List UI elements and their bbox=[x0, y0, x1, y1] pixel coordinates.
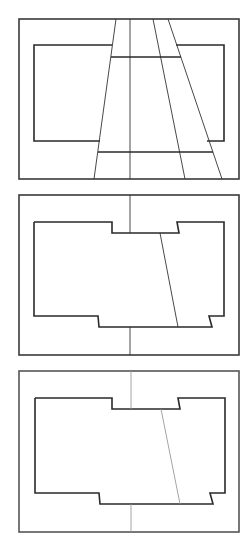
panel-2-diagonal bbox=[160, 233, 178, 327]
panel-2 bbox=[19, 195, 239, 355]
panel-3-inner-shape bbox=[35, 398, 225, 504]
panel-3 bbox=[19, 371, 239, 532]
panel-3-frame bbox=[19, 371, 239, 532]
panel-1-frame bbox=[19, 19, 239, 179]
panel-1-line-4 bbox=[168, 19, 222, 179]
panel-2-inner-shape bbox=[34, 222, 224, 327]
panel-2-frame bbox=[19, 195, 239, 355]
panel-1-line-1 bbox=[94, 19, 116, 179]
panel-1-inner-left bbox=[34, 45, 112, 141]
panel-1-line-3 bbox=[153, 19, 185, 179]
diagram-canvas bbox=[0, 0, 248, 546]
panel-1-inner-right bbox=[176, 45, 224, 141]
panel-1 bbox=[19, 19, 239, 179]
panel-3-diagonal bbox=[161, 409, 180, 504]
